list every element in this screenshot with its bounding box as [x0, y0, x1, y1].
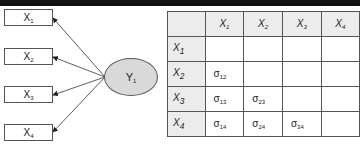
matrix-cell — [321, 37, 359, 62]
matrix-cell — [205, 37, 244, 62]
observed-variable-x4: X4 — [4, 124, 53, 141]
observed-variable-x2: X2 — [4, 48, 53, 65]
matrix-cell-sigma-14: σ14 — [205, 112, 244, 137]
matrix-row-x1: X1 — [168, 37, 360, 62]
matrix-cell — [282, 87, 321, 112]
header-row: X1 X2 X3 X4 — [168, 12, 360, 37]
row-header-x3: X3 — [168, 87, 206, 112]
col-header-x4: X4 — [321, 12, 359, 37]
row-header-x1: X1 — [168, 37, 206, 62]
col-header-x3: X3 — [282, 12, 321, 37]
matrix-cell — [321, 62, 359, 87]
col-header-x2: X2 — [244, 12, 283, 37]
matrix-row-x2: X2 σ12 — [168, 62, 360, 87]
matrix-cell-sigma-34: σ34 — [282, 112, 321, 137]
row-header-x4: X4 — [168, 112, 206, 137]
observed-variable-x3: X3 — [4, 86, 53, 103]
covariance-matrix: X1 X2 X3 X4 X1 X2 σ12 X3 σ13 σ23 X4 σ14 … — [167, 11, 360, 137]
matrix-row-x3: X3 σ13 σ23 — [168, 87, 360, 112]
matrix-cell — [282, 62, 321, 87]
matrix-cell — [321, 87, 359, 112]
observed-variable-x1: X1 — [4, 9, 53, 26]
matrix-cell-sigma-23: σ23 — [244, 87, 283, 112]
matrix-cell — [321, 112, 359, 137]
matrix-row-x4: X4 σ14 σ24 σ34 — [168, 112, 360, 137]
matrix-cell — [282, 37, 321, 62]
matrix-cell-sigma-12: σ12 — [205, 62, 244, 87]
row-header-x2: X2 — [168, 62, 206, 87]
matrix-cell-sigma-24: σ24 — [244, 112, 283, 137]
col-header-x1: X1 — [205, 12, 244, 37]
latent-variable-y1: Y1 — [104, 58, 158, 96]
matrix-cell-sigma-13: σ13 — [205, 87, 244, 112]
matrix-cell — [244, 37, 283, 62]
matrix-cell — [244, 62, 283, 87]
corner-cell — [168, 12, 206, 37]
